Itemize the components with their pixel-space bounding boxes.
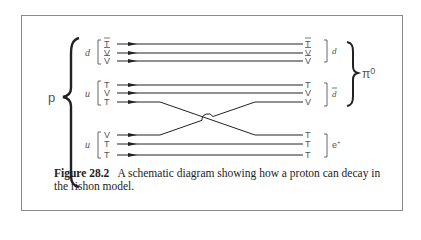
bracket-right-2 [324,83,327,106]
out-label-dbar: d [332,89,337,99]
bracket-right-3 [324,134,327,157]
group-label-u1: u [85,88,90,99]
rishon-out-9: T [305,150,311,160]
pion-label: π0 [362,66,375,81]
proton-label: p [48,90,55,105]
proton-brace [63,38,79,187]
bracket-left-3 [98,132,101,158]
out-label-positron: e+ [332,139,341,150]
rishon-in-8: T [104,139,110,149]
group-label-d: d [85,47,91,58]
rishon-out-8: T [305,139,311,149]
figure-number: Figure 28.2 [54,167,109,179]
figure-caption: Figure 28.2A schematic diagram showing h… [54,167,384,193]
rishon-in-3: V [104,56,110,66]
bracket-right-1 [324,40,327,62]
rishon-lines [117,44,303,155]
rishon-out-3: V [305,56,311,66]
out-label-d: d [332,46,337,56]
rishon-out-6: V [305,97,311,107]
arrowheads [128,42,137,157]
rishon-in-9: T [104,150,110,160]
rishon-in-6: T [104,97,110,107]
pion-brace [347,42,358,106]
bracket-left-2 [98,81,101,105]
group-label-u2: u [85,139,90,150]
bracket-left-1 [98,40,101,64]
